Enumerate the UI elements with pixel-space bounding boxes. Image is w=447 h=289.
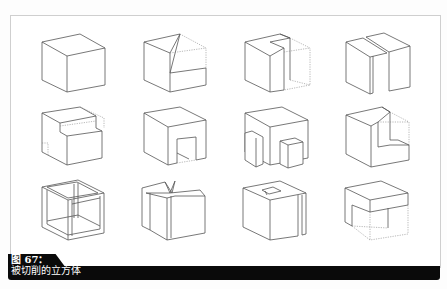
cube-top-step — [42, 107, 104, 165]
figure-caption-text: 被切削的立方体 — [11, 265, 81, 276]
cube-wireframe — [42, 180, 104, 240]
figure-caption: 图 67： 被切削的立方体 — [11, 254, 81, 276]
cube-grid — [0, 0, 447, 289]
cube-l-notch — [245, 34, 310, 92]
cube-lower-removed — [345, 181, 408, 240]
cube-arch-opening — [144, 107, 206, 165]
cube-wedge-cut — [144, 34, 206, 92]
figure-label: 图 67： — [11, 254, 81, 265]
cube-vertical-slot — [346, 33, 410, 94]
cube-hollow-core — [243, 181, 306, 240]
cube-protruding-blocks — [245, 107, 308, 168]
cube-folded-flaps — [142, 181, 205, 240]
cube-corner-notch — [346, 107, 409, 167]
cube-solid — [42, 34, 105, 92]
